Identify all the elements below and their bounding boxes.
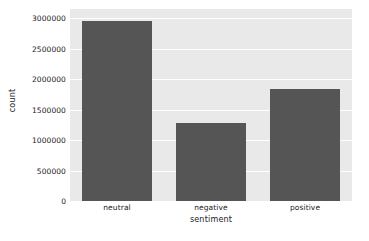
y-tick-label: 1500000 xyxy=(32,105,66,114)
y-tick-label: 3000000 xyxy=(32,14,66,23)
y-axis-tick-labels: 0500000100000015000002000000250000030000… xyxy=(18,0,66,241)
y-tick-label: 1000000 xyxy=(32,136,66,145)
x-axis-label: sentiment xyxy=(70,215,352,224)
bar-series xyxy=(70,9,352,201)
bar-negative xyxy=(176,123,246,201)
y-tick-label: 0 xyxy=(61,197,66,206)
plot-area xyxy=(70,9,352,201)
y-tick-label: 2500000 xyxy=(32,44,66,53)
y-tick-label: 500000 xyxy=(37,166,66,175)
x-tick-label: negative xyxy=(194,203,228,212)
y-axis-label-text: count xyxy=(9,88,18,112)
bar-positive xyxy=(270,89,340,201)
x-tick-label: positive xyxy=(290,203,320,212)
bar-chart-figure: count 0500000100000015000002000000250000… xyxy=(0,0,369,241)
y-tick-label: 2000000 xyxy=(32,75,66,84)
x-tick-label: neutral xyxy=(103,203,131,212)
bar-neutral xyxy=(82,21,152,201)
